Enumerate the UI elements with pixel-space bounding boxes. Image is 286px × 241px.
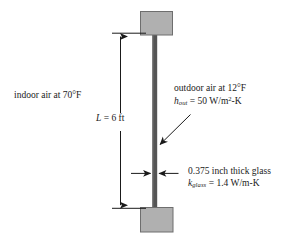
outdoor-convection-coefficient: hout = 50 W/m2-K — [174, 95, 246, 108]
k-equals: = — [209, 178, 214, 188]
top-wall-block — [141, 12, 173, 36]
h-subscript: out — [179, 99, 188, 106]
outdoor-air-label: outdoor air at 12°F hout = 50 W/m2-K — [174, 83, 246, 108]
h-units-post: -K — [232, 96, 242, 106]
schematic-drawing — [0, 0, 286, 241]
h-equals: = — [190, 96, 195, 106]
length-symbol: L — [96, 113, 101, 123]
glass-thickness-text: 0.375 inch thick glass — [188, 166, 271, 178]
length-value: 6 — [111, 113, 116, 123]
bottom-wall-block — [141, 208, 174, 233]
glass-conductivity: kglass = 1.4 W/m-K — [188, 178, 271, 190]
outdoor-air-temperature-text: outdoor air at 12°F — [174, 83, 246, 95]
glass-pane — [152, 30, 157, 212]
length-label: L = 6 ft — [96, 113, 124, 125]
k-value: 1.4 — [216, 178, 228, 188]
k-units: W/m-K — [228, 178, 259, 188]
figure-canvas: indoor air at 70°F outdoor air at 12°F h… — [0, 0, 286, 241]
length-unit: ft — [119, 113, 125, 123]
h-value: 50 — [198, 96, 208, 106]
indoor-air-label: indoor air at 70°F — [14, 90, 81, 102]
h-units-pre: W/m — [207, 96, 228, 106]
k-subscript: glass — [192, 181, 206, 188]
length-equals: = — [104, 113, 109, 123]
outdoor-leader-arrow — [160, 115, 191, 145]
glass-property-label: 0.375 inch thick glass kglass = 1.4 W/m-… — [188, 166, 271, 190]
